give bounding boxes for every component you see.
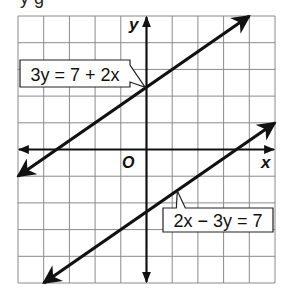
y-axis-label: y [128, 15, 140, 34]
x-axis-label: x [260, 153, 272, 172]
cut-off-heading-text: y g [20, 0, 44, 8]
graph-figure: 3y = 7 + 2x2x − 3y = 7 x y O y g [0, 0, 282, 291]
coordinate-plane: 3y = 7 + 2x2x − 3y = 7 x y O y g [0, 0, 282, 291]
origin-label: O [122, 154, 135, 171]
equation-label-1: 3y = 7 + 2x [30, 65, 119, 85]
equation-label-2: 2x − 3y = 7 [173, 211, 262, 231]
